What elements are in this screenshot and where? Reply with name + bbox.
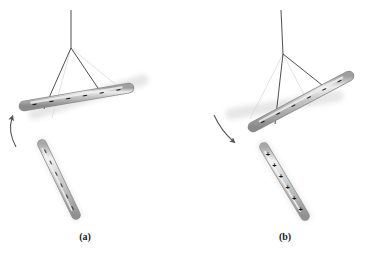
positive-charge-mark: +: [299, 205, 304, 214]
positive-charge-mark: +: [272, 161, 277, 170]
positive-charge-mark: +: [279, 172, 284, 181]
panel-label-b: (b): [279, 231, 291, 243]
positive-charge-mark: +: [285, 183, 290, 192]
panel-label-a: (a): [79, 231, 91, 243]
charged-rod-diagram: −−−−−− −−−−−− (a): [0, 0, 366, 253]
positive-charge-mark: +: [266, 150, 271, 159]
positive-charge-mark: +: [292, 194, 297, 203]
physics-figure-root: −−−−−− −−−−−− (a): [0, 0, 366, 253]
